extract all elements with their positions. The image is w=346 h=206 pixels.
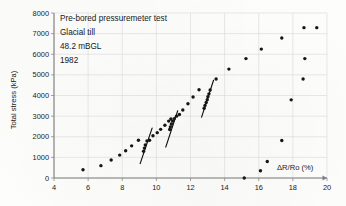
y-tick-label: 5000 (33, 70, 49, 79)
unload-reload-tangent-lines (140, 80, 213, 163)
x-tick-label: 6 (86, 183, 90, 192)
x-axis-tick-labels: 468101214161820 (52, 183, 331, 192)
data-point (280, 139, 283, 142)
data-point (208, 88, 211, 91)
x-axis-title: ΔR/Ro (%) (277, 163, 314, 172)
x-axis-arrow (323, 176, 328, 181)
x-tick-label: 8 (120, 183, 124, 192)
data-point (207, 92, 210, 95)
data-point (81, 168, 84, 171)
pressuremeter-scatter-chart: 010002000300040005000600070008000 468101… (0, 0, 346, 206)
data-point (243, 176, 246, 179)
y-tick-label: 7000 (33, 29, 49, 38)
data-point (260, 47, 263, 50)
data-point (99, 164, 102, 167)
data-point (159, 128, 162, 131)
data-point (280, 36, 283, 39)
data-point (266, 160, 269, 163)
data-point (206, 95, 209, 98)
x-tick-label: 10 (152, 183, 160, 192)
data-point (214, 77, 217, 80)
data-point (130, 144, 133, 147)
data-point (156, 131, 159, 134)
data-point (259, 169, 262, 172)
data-point (144, 143, 147, 146)
annotation-line-1: Pre-bored pressuremeter test (60, 14, 168, 23)
data-point (202, 107, 205, 110)
y-tick-label: 8000 (33, 9, 49, 18)
data-point (142, 149, 145, 152)
data-point (303, 57, 306, 60)
data-point (118, 153, 121, 156)
x-tick-label: 4 (52, 183, 56, 192)
data-point (124, 149, 127, 152)
data-point (197, 88, 200, 91)
data-point (227, 67, 230, 70)
data-point (191, 95, 194, 98)
y-tick-label: 6000 (33, 50, 49, 59)
data-point (143, 146, 146, 149)
y-tick-label: 3000 (33, 112, 49, 121)
data-point (244, 57, 247, 60)
y-tick-label: 0 (45, 174, 49, 183)
data-point (175, 114, 178, 117)
x-tick-label: 16 (255, 183, 263, 192)
annotation-text-block: Pre-bored pressuremeter test Glacial til… (60, 14, 168, 65)
y-tick-label: 4000 (33, 91, 49, 100)
data-point (169, 125, 172, 128)
tick-marks (51, 13, 327, 181)
annotation-line-4: 1982 (60, 56, 79, 65)
x-tick-label: 12 (186, 183, 194, 192)
annotation-line-3: 48.2 mBGL (60, 42, 102, 51)
x-tick-label: 14 (221, 183, 229, 192)
data-point (186, 102, 189, 105)
y-tick-label: 1000 (33, 153, 49, 162)
data-point (181, 108, 184, 111)
y-tick-label: 2000 (33, 132, 49, 141)
y-axis-title: Total stress (kPa) (9, 70, 18, 129)
annotation-line-2: Glacial till (60, 28, 95, 37)
data-point (289, 98, 292, 101)
data-point (206, 98, 209, 101)
gridlines (54, 13, 327, 178)
data-point (204, 101, 207, 104)
data-point (315, 26, 318, 29)
data-point (302, 26, 305, 29)
chart-container: 010002000300040005000600070008000 468101… (0, 0, 346, 206)
data-points (81, 26, 318, 180)
data-point (301, 77, 304, 80)
x-tick-label: 20 (323, 183, 331, 192)
y-axis-tick-labels: 010002000300040005000600070008000 (33, 9, 49, 183)
data-point (148, 139, 151, 142)
data-point (178, 113, 181, 116)
x-tick-label: 18 (289, 183, 297, 192)
data-point (109, 158, 112, 161)
data-point (163, 124, 166, 127)
data-point (137, 139, 140, 142)
data-point (151, 134, 154, 137)
